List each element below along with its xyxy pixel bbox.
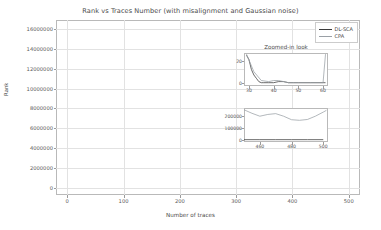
y-tick-mark <box>54 148 57 149</box>
legend-line-swatch <box>319 36 332 37</box>
inset-series-lines <box>244 53 328 86</box>
x-tick-mark <box>349 195 350 198</box>
inset-bottom: 0100000200000460480500 <box>244 108 328 142</box>
x-tick-mark <box>180 195 181 198</box>
x-tick-mark <box>67 195 68 198</box>
inset-series-dl-sca <box>246 55 325 82</box>
inset-y-tick-label: 100000 <box>224 125 242 130</box>
chart-figure: Rank vs Traces Number (with misalignment… <box>0 0 381 230</box>
inset-x-tick-mark <box>260 142 261 145</box>
gridline-horizontal <box>56 148 360 149</box>
x-tick-label: 100 <box>119 198 129 204</box>
inset-series-lines <box>244 108 328 142</box>
inset-y-tick-label: 200000 <box>224 114 242 119</box>
inset-top: Zoomed-in look02030405060 <box>244 53 328 86</box>
inset-x-tick-mark <box>323 86 324 89</box>
gridline-horizontal <box>56 188 360 189</box>
gridline-vertical <box>67 20 68 195</box>
legend-item[interactable]: DL-SCA <box>319 26 353 33</box>
legend-label: DL-SCA <box>335 26 353 32</box>
y-tick-mark <box>54 49 57 50</box>
inset-x-tick-mark <box>274 86 275 89</box>
y-tick-label: 6000000 <box>30 125 53 131</box>
y-tick-label: 0 <box>50 185 53 191</box>
legend-line-swatch <box>319 29 332 30</box>
inset-series-cpa <box>244 110 326 121</box>
chart-title: Rank vs Traces Number (with misalignment… <box>0 7 381 15</box>
y-tick-label: 10000000 <box>27 86 53 92</box>
gridline-vertical <box>180 20 181 195</box>
gridline-vertical <box>124 20 125 195</box>
inset-x-tick-mark <box>249 86 250 89</box>
x-tick-label: 400 <box>287 198 297 204</box>
y-tick-mark <box>54 188 57 189</box>
y-tick-mark <box>54 168 57 169</box>
inset-x-tick-mark <box>298 86 299 89</box>
y-tick-label: 2000000 <box>30 165 53 171</box>
inset-series-cpa <box>246 54 325 83</box>
gridline-vertical <box>349 20 350 195</box>
x-tick-mark <box>236 195 237 198</box>
inset-title: Zoomed-in look <box>244 44 328 50</box>
x-tick-label: 300 <box>231 198 241 204</box>
y-tick-label: 16000000 <box>27 26 53 32</box>
gridline-horizontal <box>56 89 360 90</box>
y-tick-label: 14000000 <box>27 46 53 52</box>
x-tick-label: 200 <box>175 198 185 204</box>
x-tick-label: 0 <box>66 198 69 204</box>
y-tick-mark <box>54 69 57 70</box>
x-tick-mark <box>292 195 293 198</box>
x-tick-mark <box>124 195 125 198</box>
y-tick-label: 8000000 <box>30 105 53 111</box>
y-tick-mark <box>54 108 57 109</box>
inset-x-tick-mark <box>323 142 324 145</box>
inset-x-tick-mark <box>292 142 293 145</box>
legend-item[interactable]: CPA <box>319 33 353 40</box>
legend-label: CPA <box>335 33 345 39</box>
y-axis-label: Rank <box>3 83 9 96</box>
main-plot-area: 0200000040000006000000800000010000000120… <box>56 20 360 195</box>
y-tick-mark <box>54 29 57 30</box>
y-tick-mark <box>54 128 57 129</box>
legend[interactable]: DL-SCACPA <box>315 22 358 43</box>
gridline-horizontal <box>56 168 360 169</box>
x-axis-label: Number of traces <box>0 212 381 218</box>
y-tick-label: 12000000 <box>27 66 53 72</box>
y-tick-mark <box>54 89 57 90</box>
gridline-vertical <box>236 20 237 195</box>
x-tick-label: 500 <box>344 198 354 204</box>
y-tick-label: 4000000 <box>30 145 53 151</box>
